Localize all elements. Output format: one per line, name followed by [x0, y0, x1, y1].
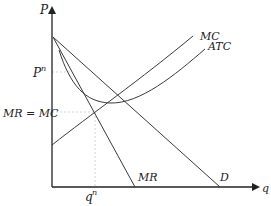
price-level-label: P n — [32, 64, 46, 80]
atc-label: ATC — [207, 40, 232, 53]
mr-label: MR — [137, 171, 158, 184]
svg-text:n: n — [92, 188, 97, 197]
demand-label: D — [219, 171, 229, 184]
monopoly-diagram: P q MC ATC MR D P n MR = MC q n — [0, 0, 271, 206]
average-total-cost-curve — [59, 49, 205, 103]
y-axis-label: P — [39, 3, 49, 17]
demand-curve — [53, 37, 220, 187]
svg-text:n: n — [41, 64, 46, 73]
marginal-cost-curve — [52, 36, 193, 145]
mr-equals-mc-label: MR = MC — [2, 107, 59, 120]
quantity-level-label: q n — [85, 188, 97, 204]
x-axis-label: q — [262, 182, 269, 195]
